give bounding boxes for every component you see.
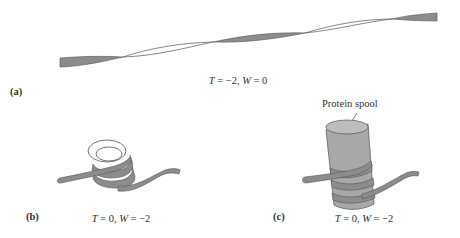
ribbon-segment [392, 13, 437, 21]
twist-value: 0 [352, 213, 357, 224]
writhe-symbol: W [242, 75, 251, 86]
panel-label-b: (b) [26, 211, 39, 222]
twist-symbol: T [92, 213, 98, 224]
spool-top [326, 120, 368, 134]
ribbon-segment [213, 33, 305, 42]
panel-b-coil [57, 140, 180, 191]
twist-value: 0 [109, 213, 114, 224]
panel-a-twisted-ribbon [60, 13, 437, 67]
panel-c-spool [302, 113, 419, 209]
panel-label-c: (c) [273, 211, 285, 222]
figure-canvas [0, 0, 460, 238]
writhe-symbol: W [119, 213, 128, 224]
caption-a: T = −2, W = 0 [209, 75, 268, 86]
caption-b: T = 0, W = −2 [92, 213, 151, 224]
caption-c: T = 0, W = −2 [335, 213, 394, 224]
coil-back-loop [96, 147, 122, 161]
ribbon-segment [60, 56, 123, 67]
panel-label-a: (a) [10, 86, 22, 97]
writhe-symbol: W [362, 213, 371, 224]
twist-symbol: T [335, 213, 341, 224]
writhe-value: −2 [139, 213, 150, 224]
ribbon-segment [305, 19, 392, 33]
writhe-value: 0 [262, 75, 267, 86]
protein-spool-label: Protein spool [322, 98, 378, 109]
twist-symbol: T [209, 75, 215, 86]
twist-value: −2 [226, 75, 237, 86]
ribbon-segment [123, 42, 213, 57]
writhe-value: −2 [382, 213, 393, 224]
